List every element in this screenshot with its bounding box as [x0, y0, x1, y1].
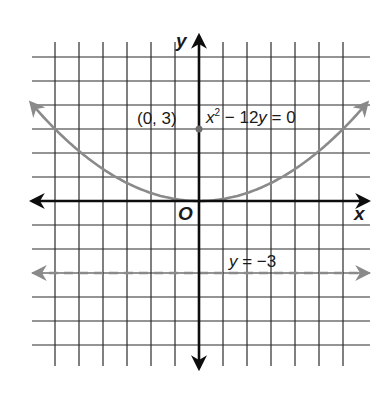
- axes-layer: [32, 36, 368, 368]
- parabola-equation-label: x2 − 12y = 0: [206, 108, 296, 126]
- equation-var-x: x: [206, 108, 215, 127]
- grid-lines: [32, 42, 370, 366]
- x-axis-label: x: [354, 204, 365, 223]
- origin-label: O: [178, 204, 193, 223]
- equation-rhs: = 0: [267, 108, 296, 127]
- directrix-var-y: y: [229, 252, 238, 271]
- directrix-label: y = −3: [229, 253, 276, 270]
- focus-point-label: (0, 3): [137, 110, 177, 127]
- coordinate-plane-figure: y x O (0, 3) x2 − 12y = 0 y = −3: [0, 0, 388, 402]
- focus-point-dot: [196, 126, 203, 133]
- equation-middle: − 12: [220, 108, 258, 127]
- y-axis-label: y: [176, 31, 187, 50]
- directrix-rest: = −3: [238, 252, 277, 271]
- equation-var-y: y: [258, 108, 267, 127]
- graph-canvas: [0, 0, 388, 402]
